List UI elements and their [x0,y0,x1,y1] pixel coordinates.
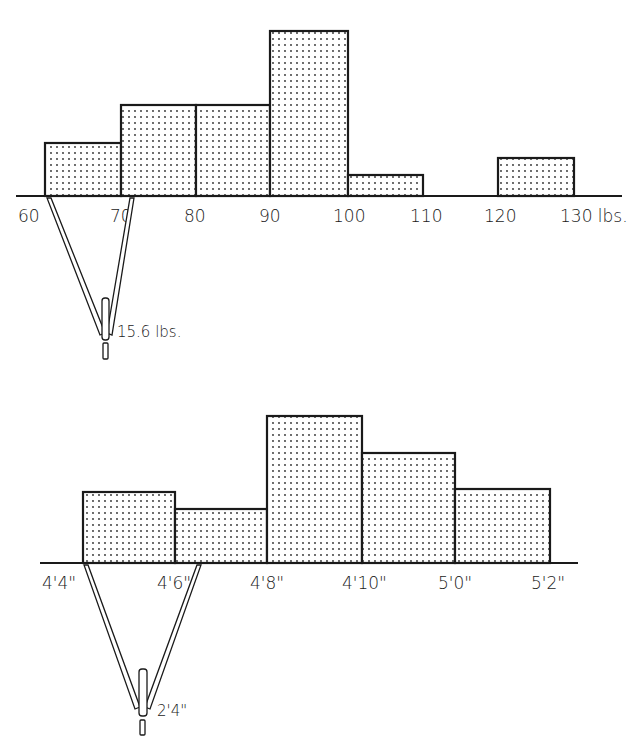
bar-4ft8-4ft10 [267,416,362,563]
height-bars [83,416,550,563]
height-tick-labels: 4'4" 4'6" 4'8" 4'10" 5'0" 5'2" [42,573,565,593]
tick-label: 60 [18,206,40,226]
tick-label: 5'0" [438,573,472,593]
bar-4ft10-5ft0 [362,453,455,563]
weight-bars [45,31,574,196]
figure: 60 70 80 90 100 110 120 130 lbs. 15.6 lb… [0,0,640,756]
tick-label: 4'6" [157,573,191,593]
tick-label: 130 lbs. [560,206,628,226]
tick-label: 4'10" [342,573,387,593]
weight-histogram: 60 70 80 90 100 110 120 130 lbs. 15.6 lb… [16,31,628,359]
tick-label: 4'8" [250,573,284,593]
bar-60-70 [45,143,121,196]
tick-label: 120 [484,206,516,226]
compass-label: 15.6 lbs. [117,323,181,341]
bar-4ft4-4ft6 [83,492,175,563]
tick-label: 90 [259,206,281,226]
bar-90-100 [270,31,348,196]
bar-100-110 [348,175,423,196]
tick-label: 100 [333,206,365,226]
bar-5ft0-5ft2 [455,489,550,563]
bar-70-80 [121,105,196,196]
tick-label: 4'4" [42,573,76,593]
tick-label: 5'2" [531,573,565,593]
bar-4ft6-4ft8 [175,509,267,563]
weight-tick-labels: 60 70 80 90 100 110 120 130 lbs. [18,206,628,226]
bar-120-130 [498,158,574,196]
height-histogram: 4'4" 4'6" 4'8" 4'10" 5'0" 5'2" 2'4" [40,416,578,735]
tick-label: 110 [410,206,442,226]
bar-80-90 [196,105,270,196]
compass-label: 2'4" [157,702,187,720]
tick-label: 80 [184,206,206,226]
